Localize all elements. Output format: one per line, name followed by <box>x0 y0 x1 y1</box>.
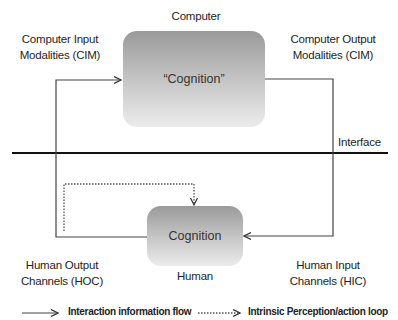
computer-cognition-box: “Cognition” <box>123 31 265 127</box>
computer-output-modalities-label: Computer Output Modalities (CIM) <box>275 31 391 63</box>
computer-label: Computer <box>166 8 226 24</box>
interface-label: Interface <box>338 134 390 150</box>
computer-input-modalities-label: Computer Input Modalities (CIM) <box>12 31 108 63</box>
human-cognition-box: Cognition <box>147 206 243 266</box>
human-output-channels-label: Human Output Channels (HOC) <box>14 257 110 289</box>
human-input-channels-label: Human Input Channels (HIC) <box>280 257 376 289</box>
human-label: Human <box>165 268 225 284</box>
legend-dotted-label: Intrinsic Perception/action loop <box>248 306 388 317</box>
computer-cognition-text: “Cognition” <box>163 72 224 86</box>
human-cognition-text: Cognition <box>169 229 222 243</box>
legend-solid-label: Interaction information flow <box>68 306 191 317</box>
